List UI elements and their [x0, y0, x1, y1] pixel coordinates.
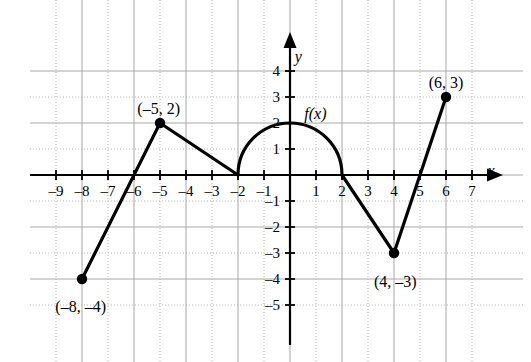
x-tick-label: 2: [338, 184, 346, 199]
x-tick-label: –5: [153, 184, 168, 199]
x-tick-label: 7: [468, 184, 476, 199]
data-point-dot: [77, 274, 87, 284]
y-tick-label: –1: [265, 194, 280, 209]
x-tick-label: –8: [75, 184, 90, 199]
x-tick-label: 4: [390, 184, 398, 199]
x-tick-label: –9: [49, 184, 64, 199]
graph-figure: –9–8–7–6–5–4–3–2–112345674321–1–2–3–4–5f…: [0, 0, 531, 362]
y-tick-label: –4: [265, 272, 280, 287]
y-tick-label: –3: [265, 246, 280, 261]
x-axis-label: x: [488, 163, 495, 179]
y-axis-arrowhead: [284, 32, 297, 48]
point-coordinate-label: (6, 3): [429, 75, 464, 91]
data-point-dot: [155, 118, 165, 128]
y-tick-label: 3: [273, 90, 281, 105]
y-tick-label: 1: [273, 142, 281, 157]
x-tick-label: –7: [101, 184, 116, 199]
x-tick-label: 6: [442, 184, 450, 199]
x-tick-label: –6: [127, 184, 142, 199]
x-tick-label: 1: [312, 184, 320, 199]
y-tick-label: 4: [273, 64, 281, 79]
point-coordinate-label: (–8, –4): [55, 299, 106, 315]
x-tick-label: –3: [205, 184, 220, 199]
point-coordinate-label: (4, –3): [374, 274, 417, 290]
y-tick-label: –2: [265, 220, 280, 235]
data-point-dot: [389, 248, 399, 258]
point-coordinate-label: (–5, 2): [137, 101, 180, 117]
function-name-label: f(x): [304, 106, 326, 122]
x-tick-label: –2: [231, 184, 246, 199]
x-tick-label: 5: [416, 184, 424, 199]
x-tick-label: 3: [364, 184, 372, 199]
y-tick-label: 2: [273, 116, 281, 131]
data-point-dot: [441, 92, 451, 102]
y-tick-label: –5: [265, 298, 280, 313]
x-tick-label: –4: [179, 184, 194, 199]
y-axis-label: y: [295, 49, 302, 65]
